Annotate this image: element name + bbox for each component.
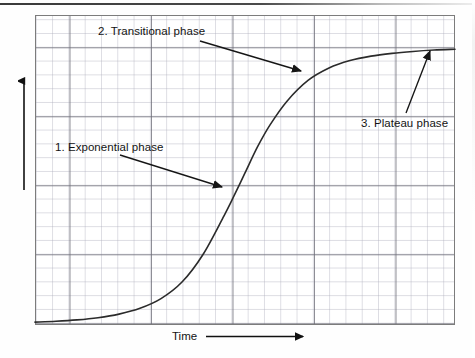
y-axis-arrow-icon [18,72,30,192]
annotation-label-transitional: 2. Transitional phase [98,25,205,38]
plot-area [35,15,455,325]
curve-layer [35,15,455,325]
annotation-arrow-transitional [200,41,301,71]
scan-artifact-top-line [0,3,475,5]
figure-page: Population size Time [0,0,475,358]
x-axis-label: Time [172,330,197,342]
annotation-arrow-exponential [120,155,222,187]
annotation-arrow-plateau [406,51,430,113]
annotation-label-exponential: 1. Exponential phase [55,141,163,154]
growth-curve-path [35,49,455,322]
annotation-label-plateau: 3. Plateau phase [361,117,448,130]
x-axis-arrow-icon [205,330,315,344]
